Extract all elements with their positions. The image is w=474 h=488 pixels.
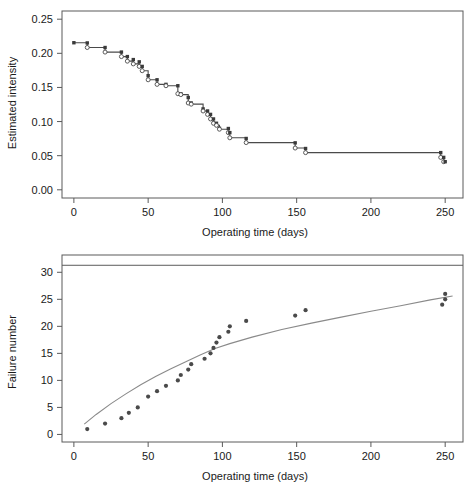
data-point bbox=[85, 427, 89, 431]
data-point-square bbox=[304, 147, 307, 150]
data-point bbox=[136, 405, 140, 409]
x-axis-tick-label: 50 bbox=[142, 206, 154, 218]
data-point-square bbox=[72, 41, 75, 44]
data-point-square bbox=[132, 58, 135, 61]
y-axis-tick-label: 0 bbox=[47, 428, 53, 440]
data-point-circle bbox=[293, 146, 297, 150]
data-point-square bbox=[439, 151, 442, 154]
x-axis-title: Operating time (days) bbox=[202, 226, 308, 238]
data-point-square bbox=[187, 96, 190, 99]
data-point-circle bbox=[125, 59, 129, 63]
y-axis-tick-label: 10 bbox=[41, 374, 53, 386]
data-point-circle bbox=[103, 50, 107, 54]
data-point bbox=[103, 422, 107, 426]
data-point-square bbox=[244, 137, 247, 140]
plot-frame bbox=[62, 11, 463, 198]
data-point-circle bbox=[85, 46, 89, 50]
y-axis-tick-label: 5 bbox=[47, 401, 53, 413]
x-axis-tick-label: 50 bbox=[142, 450, 154, 462]
data-point-square bbox=[228, 131, 231, 134]
data-point-circle bbox=[201, 109, 205, 113]
data-point-circle bbox=[179, 93, 183, 97]
x-axis-tick-label: 200 bbox=[362, 206, 380, 218]
data-point-square bbox=[103, 46, 106, 49]
y-axis-title: Failure number bbox=[6, 315, 18, 389]
data-point bbox=[202, 357, 206, 361]
data-point-square bbox=[227, 127, 230, 130]
data-point bbox=[443, 297, 447, 301]
data-point-square bbox=[209, 113, 212, 116]
y-axis-title: Estimated intensity bbox=[6, 56, 18, 149]
y-axis-tick-label: 0.00 bbox=[32, 184, 53, 196]
data-point-circle bbox=[146, 78, 150, 82]
data-point-square bbox=[120, 50, 123, 53]
x-axis-tick-label: 100 bbox=[213, 450, 231, 462]
y-axis-tick-label: 0.15 bbox=[32, 81, 53, 93]
data-point bbox=[179, 373, 183, 377]
x-axis-tick-label: 250 bbox=[436, 206, 454, 218]
plot-frame bbox=[62, 255, 463, 442]
data-point bbox=[244, 319, 248, 323]
data-point bbox=[217, 335, 221, 339]
data-point-square bbox=[443, 160, 446, 163]
y-axis-tick-label: 0.20 bbox=[32, 47, 53, 59]
data-point-square bbox=[146, 74, 149, 77]
x-axis-tick-label: 100 bbox=[213, 206, 231, 218]
data-point bbox=[440, 303, 444, 307]
chart-panel-estimated-intensity: 0501001502002500.000.050.100.150.200.25 … bbox=[0, 0, 474, 244]
data-point-circle bbox=[228, 136, 232, 140]
y-axis-tick-label: 25 bbox=[41, 293, 53, 305]
y-axis-tick-label: 0.10 bbox=[32, 116, 53, 128]
y-axis-tick-label: 15 bbox=[41, 347, 53, 359]
data-point-circle bbox=[164, 84, 168, 88]
data-point bbox=[127, 411, 131, 415]
data-point-square bbox=[212, 117, 215, 120]
data-point-square bbox=[155, 78, 158, 81]
data-point-circle bbox=[155, 82, 159, 86]
x-axis-tick-label: 200 bbox=[362, 450, 380, 462]
fitted-mean-value-curve bbox=[84, 296, 452, 424]
estimated-intensity-plot: 0501001502002500.000.050.100.150.200.25 … bbox=[0, 0, 474, 244]
data-point bbox=[186, 367, 190, 371]
data-point bbox=[214, 340, 218, 344]
data-point bbox=[176, 378, 180, 382]
data-point-circle bbox=[217, 127, 221, 131]
data-point-square bbox=[86, 41, 89, 44]
x-axis-tick-label: 150 bbox=[287, 206, 305, 218]
x-axis-tick-label: 0 bbox=[71, 450, 77, 462]
chart-panel-failure-number: 050100150200250051015202530 Operating ti… bbox=[0, 244, 474, 488]
data-point bbox=[155, 389, 159, 393]
x-axis-tick-label: 0 bbox=[71, 206, 77, 218]
y-axis-tick-label: 20 bbox=[41, 320, 53, 332]
data-point-square bbox=[442, 156, 445, 159]
data-point-circle bbox=[244, 141, 248, 145]
data-point-square bbox=[293, 141, 296, 144]
data-point bbox=[208, 351, 212, 355]
y-axis-tick-label: 0.05 bbox=[32, 150, 53, 162]
data-point bbox=[146, 395, 150, 399]
x-axis-tick-label: 150 bbox=[287, 450, 305, 462]
data-point-circle bbox=[119, 55, 123, 59]
data-point-square bbox=[138, 60, 141, 63]
data-point-circle bbox=[131, 62, 135, 66]
failure-number-plot: 050100150200250051015202530 Operating ti… bbox=[0, 244, 474, 488]
data-point-circle bbox=[189, 102, 193, 106]
data-point bbox=[303, 308, 307, 312]
y-axis-tick-label: 30 bbox=[41, 266, 53, 278]
data-point bbox=[443, 292, 447, 296]
data-point-square bbox=[126, 55, 129, 58]
data-point-circle bbox=[304, 151, 308, 155]
y-axis-tick-label: 0.25 bbox=[32, 13, 53, 25]
data-point-square bbox=[141, 65, 144, 68]
data-point-square bbox=[176, 84, 179, 87]
data-point-circle bbox=[140, 69, 144, 73]
data-point bbox=[164, 384, 168, 388]
data-point bbox=[226, 330, 230, 334]
data-point bbox=[189, 362, 193, 366]
data-point bbox=[211, 346, 215, 350]
data-point bbox=[293, 313, 297, 317]
figure-container: 0501001502002500.000.050.100.150.200.25 … bbox=[0, 0, 474, 488]
x-axis-title: Operating time (days) bbox=[202, 470, 308, 482]
data-point bbox=[228, 324, 232, 328]
data-point bbox=[119, 416, 123, 420]
